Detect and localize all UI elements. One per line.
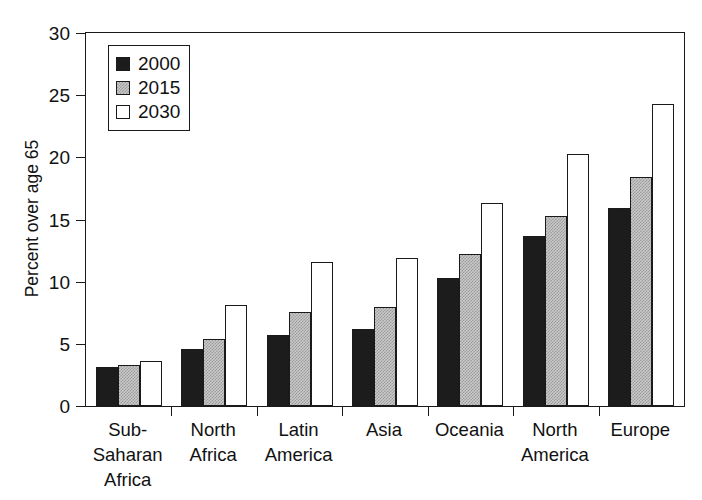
legend-item-2000: 2000 xyxy=(116,52,180,76)
y-axis-tick-label: 25 xyxy=(49,84,70,108)
y-axis-tick-label: 0 xyxy=(59,395,70,419)
bar-2030-4 xyxy=(481,203,503,406)
bar-2015-0 xyxy=(118,365,140,406)
bar-2030-6 xyxy=(652,104,674,406)
x-axis-category-label: Latin America xyxy=(229,417,369,467)
bar-2000-2 xyxy=(267,335,289,406)
legend: 200020152030 xyxy=(108,45,190,131)
bar-2015-3 xyxy=(374,307,396,406)
bar-2000-1 xyxy=(181,349,203,406)
legend-item-label: 2015 xyxy=(138,77,180,99)
x-axis-tick xyxy=(599,406,600,416)
y-axis-tick-label: 15 xyxy=(49,209,70,233)
x-axis-tick xyxy=(171,406,172,416)
y-axis-title: Percent over age 65 xyxy=(18,32,46,405)
y-axis-tick: 0 xyxy=(76,406,86,407)
bar-2015-6 xyxy=(630,177,652,406)
x-axis-category-label: Asia xyxy=(314,417,454,442)
white-square-icon xyxy=(116,105,130,119)
x-axis-category-label: North Africa xyxy=(143,417,283,467)
y-axis-tick-label: 20 xyxy=(49,146,70,170)
y-axis-tick: 10 xyxy=(76,282,86,283)
gray-square-icon xyxy=(116,81,130,95)
bar-2015-5 xyxy=(545,216,567,406)
bar-2000-6 xyxy=(608,208,630,406)
bar-2030-1 xyxy=(225,305,247,406)
y-axis-tick: 30 xyxy=(76,33,86,34)
y-axis-tick-label: 30 xyxy=(49,22,70,46)
bar-2030-5 xyxy=(567,154,589,406)
bar-2015-1 xyxy=(203,339,225,406)
bar-2030-3 xyxy=(396,258,418,406)
x-axis-category-label: North America xyxy=(485,417,625,467)
x-axis-category-label: Oceania xyxy=(399,417,539,442)
y-axis-tick-label: 5 xyxy=(59,333,70,357)
x-axis-category-label: Sub- Saharan Africa xyxy=(58,417,198,492)
y-axis-tick: 5 xyxy=(76,344,86,345)
black-square-icon xyxy=(116,57,130,71)
bar-2015-2 xyxy=(289,312,311,406)
bar-2000-5 xyxy=(523,236,545,406)
y-axis-tick-label: 10 xyxy=(49,271,70,295)
x-axis-category-label: Europe xyxy=(570,417,702,442)
legend-item-label: 2030 xyxy=(138,101,180,123)
bar-2000-3 xyxy=(352,329,374,406)
bar-2030-0 xyxy=(140,361,162,406)
bar-2030-2 xyxy=(311,262,333,406)
legend-item-label: 2000 xyxy=(138,53,180,75)
x-axis-tick xyxy=(428,406,429,416)
y-axis-tick: 15 xyxy=(76,220,86,221)
y-axis-tick: 20 xyxy=(76,157,86,158)
bar-2015-4 xyxy=(459,254,481,406)
bar-chart: Percent over age 65 051015202530 Sub- Sa… xyxy=(0,0,702,500)
y-axis-tick: 25 xyxy=(76,95,86,96)
bar-2000-4 xyxy=(437,278,459,406)
x-axis-tick xyxy=(342,406,343,416)
x-axis-tick xyxy=(257,406,258,416)
bar-2000-0 xyxy=(96,367,118,406)
legend-item-2030: 2030 xyxy=(116,100,180,124)
legend-item-2015: 2015 xyxy=(116,76,180,100)
x-axis-tick xyxy=(513,406,514,416)
